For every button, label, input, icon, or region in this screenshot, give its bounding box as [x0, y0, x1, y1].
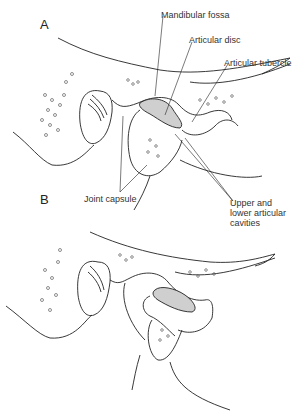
label-cavities-line2: lower articular	[230, 208, 286, 218]
panel-label-b: B	[40, 192, 49, 207]
panel-b-drawing	[6, 232, 275, 410]
label-articular-tubercle: Articular tubercle	[224, 58, 292, 68]
label-cavities-line1: Upper and	[230, 198, 286, 208]
panel-label-a: A	[40, 17, 49, 32]
label-articular-cavities: Upper and lower articular cavities	[230, 198, 286, 228]
articular-disc-a	[139, 99, 181, 128]
articular-disc-b	[153, 288, 195, 312]
bone-stipple-b	[41, 249, 216, 342]
label-articular-disc: Articular disc	[189, 35, 241, 45]
label-joint-capsule: Joint capsule	[84, 194, 137, 204]
label-cavities-line3: cavities	[230, 218, 286, 228]
bone-stipple-a	[41, 73, 234, 158]
label-mandibular-fossa: Mandibular fossa	[161, 10, 230, 20]
